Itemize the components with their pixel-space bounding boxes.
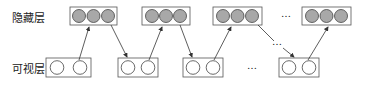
rbm-chain-diagram [0,0,376,86]
visible-unit [73,61,87,75]
arrow-v1-h1 [79,27,89,60]
hidden-group-1 [70,7,117,25]
hidden-unit [87,10,100,23]
visible-unit [50,61,64,75]
visible-group-4 [279,58,319,77]
arrows [79,25,328,60]
visible-group-1 [46,58,91,77]
visible-unit [186,61,200,75]
hidden-ellipsis: … [281,8,291,19]
hidden-unit [160,10,173,23]
visible-unit [121,61,135,75]
arrow-h1-v2 [111,25,127,57]
visible-group-2 [118,58,158,77]
hidden-unit [146,10,159,23]
arrow-v3-h3 [214,27,231,60]
visible-unit [141,61,155,75]
hidden-unit [102,10,115,23]
arrow-h2-v3 [180,25,192,57]
hidden-unit [306,10,319,23]
arrow-v4-h4 [308,27,328,60]
visible-group-3 [183,58,223,77]
hidden-unit [73,10,86,23]
hidden-unit [246,10,259,23]
arrow-v2-h2 [149,27,162,60]
visible-unit [206,61,220,75]
middle-ellipsis: … [272,36,282,47]
hidden-unit [320,10,333,23]
hidden-unit [231,10,244,23]
visible-unit [302,61,316,75]
visible-unit [282,61,296,75]
arrow-ellipsis-v4 [283,48,294,57]
hidden-unit [174,10,187,23]
hidden-unit [217,10,230,23]
hidden-group-2 [142,7,190,25]
visible-ellipsis: … [247,60,257,71]
hidden-group-4 [302,7,351,25]
hidden-group-3 [213,7,262,25]
hidden-unit [335,10,348,23]
